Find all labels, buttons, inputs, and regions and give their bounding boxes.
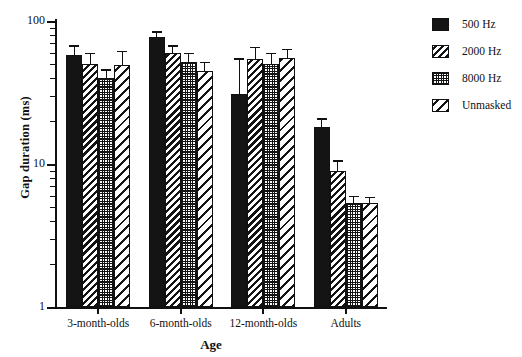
- bar: [197, 71, 213, 307]
- error-bar-cap: [250, 47, 260, 49]
- y-axis-tick-label: 1: [5, 299, 45, 314]
- bar: [330, 171, 346, 307]
- legend-swatch: [432, 72, 449, 85]
- error-bar-cap: [200, 62, 210, 64]
- x-axis-title-text: Age: [200, 337, 222, 353]
- y-axis-major-tick: [47, 21, 55, 23]
- legend-label: 2000 Hz: [462, 45, 501, 57]
- error-bar-cap: [168, 45, 178, 47]
- legend-item: 8000 Hz: [432, 66, 522, 90]
- legend-label: 500 Hz: [462, 18, 496, 30]
- bar: [314, 127, 330, 307]
- legend-swatch: [432, 99, 449, 112]
- x-axis-tick: [97, 309, 99, 314]
- error-bar-stem: [122, 51, 123, 66]
- bar: [66, 55, 82, 307]
- error-bar-stem: [255, 47, 256, 59]
- error-bar-cap: [85, 53, 95, 55]
- y-axis-tick-label: 10: [5, 156, 45, 171]
- x-axis-category-label: 3-month-olds: [67, 317, 129, 329]
- error-bar-cap: [266, 53, 276, 55]
- error-bar-stem: [239, 58, 240, 94]
- error-bar-cap: [69, 45, 79, 47]
- bar: [82, 64, 98, 307]
- y-axis-major-tick: [47, 307, 55, 309]
- bar: [149, 37, 165, 307]
- bar: [98, 78, 114, 307]
- legend-item: 500 Hz: [432, 12, 522, 36]
- y-axis-tick-labels: 100101: [0, 0, 45, 357]
- error-bar-cap: [234, 58, 244, 60]
- plot-area: [57, 21, 387, 307]
- error-bar-cap: [117, 51, 127, 53]
- bar: [114, 65, 130, 307]
- x-axis-line: [55, 307, 387, 309]
- chart-legend: 500 Hz2000 Hz8000 HzUnmasked: [432, 12, 522, 120]
- bar: [231, 94, 247, 307]
- bar: [279, 58, 295, 307]
- error-bar-cap: [184, 53, 194, 55]
- legend-swatch: [432, 18, 449, 31]
- y-axis-tick-label: 100: [5, 13, 45, 28]
- y-axis-major-tick: [47, 164, 55, 166]
- legend-swatch: [432, 45, 449, 58]
- bar: [346, 203, 362, 307]
- bar: [362, 203, 378, 307]
- legend-item: 2000 Hz: [432, 39, 522, 63]
- error-bar-cap: [365, 197, 375, 199]
- error-bar-cap: [333, 160, 343, 162]
- x-axis-tick: [345, 309, 347, 314]
- x-axis-title: Age: [0, 337, 522, 353]
- error-bar-cap: [349, 196, 359, 198]
- x-axis-category-label: Adults: [330, 317, 361, 329]
- error-bar-stem: [271, 53, 272, 64]
- error-bar-cap: [101, 69, 111, 71]
- error-bar-stem: [90, 53, 91, 64]
- bar: [181, 62, 197, 307]
- error-bar-cap: [282, 49, 292, 51]
- error-bar-cap: [317, 118, 327, 120]
- x-axis-category-label: 6-month-olds: [150, 317, 212, 329]
- chart-figure: Gap duration (ms) 100101 3-month-olds6-m…: [0, 0, 522, 357]
- bar: [263, 64, 279, 307]
- legend-label: 8000 Hz: [462, 72, 501, 84]
- bar: [165, 53, 181, 307]
- x-axis-tick: [262, 309, 264, 314]
- legend-item: Unmasked: [432, 93, 522, 117]
- error-bar-cap: [152, 31, 162, 33]
- legend-label: Unmasked: [462, 99, 511, 111]
- x-axis-category-label: 12-month-olds: [229, 317, 297, 329]
- bar: [247, 59, 263, 307]
- x-axis-tick: [180, 309, 182, 314]
